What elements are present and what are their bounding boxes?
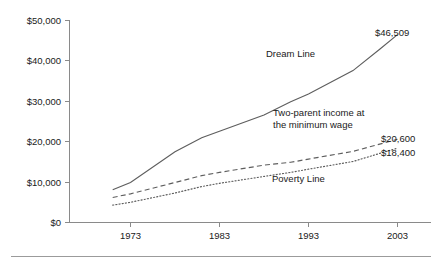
series-line-poverty-line bbox=[113, 148, 398, 205]
chart-container: $50,000 $40,000 $30,000 $20,000 $10,000 … bbox=[0, 0, 443, 269]
x-axis-tick-labels: 1973 1983 1993 2003 bbox=[120, 230, 408, 241]
x-tick-label-2003: 2003 bbox=[387, 230, 408, 241]
y-axis-ticks bbox=[65, 21, 70, 223]
value-label-two-parent-income: $20,600 bbox=[381, 133, 415, 144]
value-labels: $46,509 $20,600 $18,400 bbox=[375, 27, 415, 158]
annotation-poverty-line: Poverty Line bbox=[272, 173, 325, 184]
y-tick-label-40000: $40,000 bbox=[27, 55, 61, 66]
annotation-two-parent-income-line1: Two-parent income at bbox=[273, 107, 365, 118]
y-axis-tick-labels: $50,000 $40,000 $30,000 $20,000 $10,000 … bbox=[27, 15, 61, 228]
series-line-two-parent-income bbox=[113, 139, 398, 197]
y-tick-label-50000: $50,000 bbox=[27, 15, 61, 26]
x-tick-label-1993: 1993 bbox=[298, 230, 319, 241]
annotation-dream-line: Dream Line bbox=[266, 48, 315, 59]
series-group bbox=[113, 35, 398, 206]
y-tick-label-20000: $20,000 bbox=[27, 136, 61, 147]
annotation-two-parent-income-line2: the minimum wage bbox=[273, 119, 353, 130]
x-axis-ticks bbox=[131, 223, 398, 228]
series-annotations: Dream Line Two-parent income at the mini… bbox=[266, 48, 365, 184]
line-chart: $50,000 $40,000 $30,000 $20,000 $10,000 … bbox=[0, 0, 443, 269]
x-tick-label-1983: 1983 bbox=[209, 230, 230, 241]
x-tick-label-1973: 1973 bbox=[120, 230, 141, 241]
value-label-poverty-line: $18,400 bbox=[381, 147, 415, 158]
y-tick-label-0: $0 bbox=[50, 217, 61, 228]
y-tick-label-30000: $30,000 bbox=[27, 96, 61, 107]
y-tick-label-10000: $10,000 bbox=[27, 177, 61, 188]
value-label-dream-line: $46,509 bbox=[375, 27, 409, 38]
